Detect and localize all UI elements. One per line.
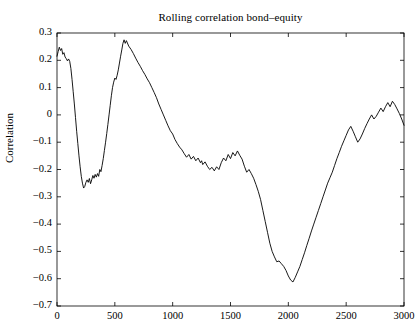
plot-area — [0, 0, 420, 335]
plot-frame — [57, 33, 404, 306]
y-tick-label: −0.7 — [18, 299, 52, 310]
x-tick-label: 500 — [95, 310, 135, 321]
y-tick-label: −0.6 — [18, 272, 52, 283]
y-tick-label: 0.3 — [18, 26, 52, 37]
y-tick-label: 0 — [18, 108, 52, 119]
y-tick-label: −0.5 — [18, 244, 52, 255]
x-axis-ticks — [57, 33, 404, 306]
data-series-line — [57, 40, 404, 282]
y-tick-label: 0.2 — [18, 53, 52, 64]
x-tick-label: 2500 — [326, 310, 366, 321]
x-tick-label: 1500 — [211, 310, 251, 321]
y-axis-ticks — [57, 33, 404, 306]
y-tick-label: −0.3 — [18, 190, 52, 201]
x-tick-label: 1000 — [153, 310, 193, 321]
x-tick-label: 3000 — [384, 310, 420, 321]
y-tick-label: −0.4 — [18, 217, 52, 228]
x-tick-label: 2000 — [268, 310, 308, 321]
y-tick-label: 0.1 — [18, 81, 52, 92]
y-tick-label: −0.2 — [18, 163, 52, 174]
y-tick-label: −0.1 — [18, 135, 52, 146]
x-tick-label: 0 — [37, 310, 77, 321]
chart-figure: Rolling correlation bond–equity Correlat… — [0, 0, 420, 335]
